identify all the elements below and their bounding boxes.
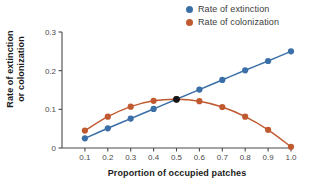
legend-dot-icon xyxy=(186,19,193,26)
legend-label-extinction: Rate of extinction xyxy=(198,4,269,14)
data-point-extinction[interactable] xyxy=(219,77,225,83)
series-line-colonization xyxy=(85,99,291,147)
x-tick-label: 0.5 xyxy=(171,153,182,162)
y-axis-title-line2: or colonization xyxy=(16,15,27,123)
legend-label-colonization: Rate of colonization xyxy=(198,17,279,27)
y-tick-label: 0.2 xyxy=(40,66,56,75)
y-axis-title: Rate of extinction or colonization xyxy=(5,15,27,123)
y-axis-title-line1: Rate of extinction xyxy=(5,15,16,123)
data-point-extinction[interactable] xyxy=(151,106,157,112)
equilibrium-point-marker[interactable] xyxy=(173,96,180,103)
data-point-extinction[interactable] xyxy=(128,116,134,122)
x-tick-label: 1.0 xyxy=(285,153,296,162)
data-point-extinction[interactable] xyxy=(82,135,88,141)
x-tick-label: 0.7 xyxy=(217,153,228,162)
data-point-extinction[interactable] xyxy=(288,48,294,54)
chart-legend: Rate of extinction Rate of colonization xyxy=(186,3,279,28)
data-point-colonization[interactable] xyxy=(128,104,134,110)
y-tick-label: 0.3 xyxy=(40,28,56,37)
data-point-colonization[interactable] xyxy=(288,144,294,150)
legend-item-extinction[interactable]: Rate of extinction xyxy=(186,3,279,15)
data-point-colonization[interactable] xyxy=(265,127,271,133)
data-point-colonization[interactable] xyxy=(219,104,225,110)
x-tick-label: 0.4 xyxy=(148,153,159,162)
x-tick-label: 0.8 xyxy=(240,153,251,162)
data-point-colonization[interactable] xyxy=(151,98,157,104)
data-point-colonization[interactable] xyxy=(105,114,111,120)
data-point-extinction[interactable] xyxy=(265,58,271,64)
x-tick-label: 0.3 xyxy=(125,153,136,162)
data-point-colonization[interactable] xyxy=(82,128,88,134)
legend-dot-icon xyxy=(186,6,193,13)
data-point-extinction[interactable] xyxy=(105,125,111,131)
data-point-extinction[interactable] xyxy=(242,67,248,73)
x-tick-label: 0.6 xyxy=(194,153,205,162)
x-tick-label: 0.2 xyxy=(102,153,113,162)
x-tick-label: 0.1 xyxy=(79,153,90,162)
x-tick-label: 0.9 xyxy=(263,153,274,162)
data-point-colonization[interactable] xyxy=(196,98,202,104)
x-axis-title: Proportion of occupied patches xyxy=(62,168,292,178)
y-tick-label: 0.1 xyxy=(40,105,56,114)
chart-figure: Rate of extinction Rate of colonization … xyxy=(0,0,311,187)
legend-item-colonization[interactable]: Rate of colonization xyxy=(186,16,279,28)
y-tick-label: 0 xyxy=(40,144,56,153)
data-point-colonization[interactable] xyxy=(242,114,248,120)
data-point-extinction[interactable] xyxy=(196,87,202,93)
